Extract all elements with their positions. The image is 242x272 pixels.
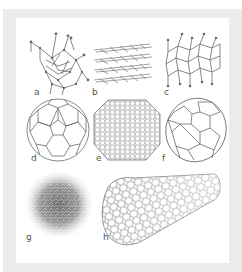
panel-label-h: h [103, 233, 109, 242]
carbon-nanotube-structure [0, 0, 242, 272]
